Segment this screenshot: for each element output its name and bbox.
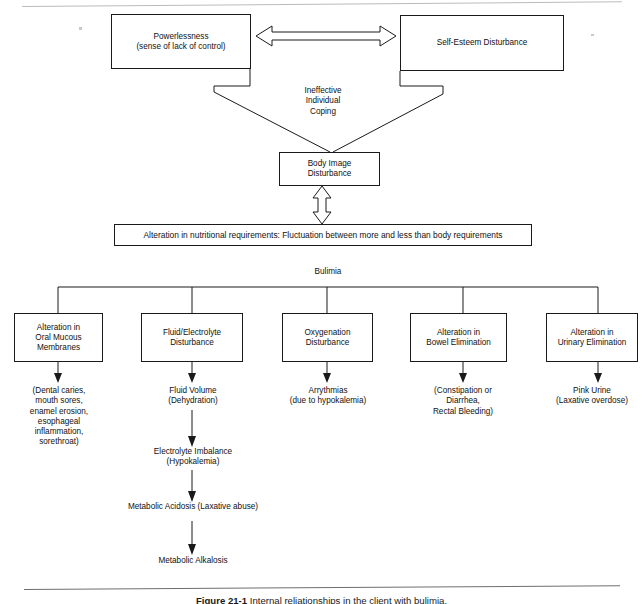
scan-speck-right <box>591 34 594 36</box>
box-bowel-elimination: Alteration in Bowel Elimination <box>410 313 507 362</box>
detail-bowel-elimination: (Constipation or Diarrhea, Rectal Bleedi… <box>406 386 520 417</box>
detail-arrythmias: Arrythmias (due to hypokalemia) <box>265 386 391 407</box>
box-urinary-elimination: Alteration in Urinary Elimination <box>546 313 638 362</box>
label-metabolic-acidosis: Metabolic Acidosis (Laxative abuse) <box>110 502 276 512</box>
double-arrow-horizontal <box>256 26 396 46</box>
label-metabolic-alkalosis: Metabolic Alkalosis <box>137 556 249 566</box>
double-arrow-vertical <box>313 186 331 224</box>
box-oral-mucous-membranes: Alteration in Oral Mucous Membranes <box>14 313 103 362</box>
figure-caption: Figure 21-1 Internal reliationships in t… <box>0 595 643 604</box>
caption-divider <box>24 585 620 590</box>
box-fluid-electrolyte-disturbance: Fluid/Electrolyte Disturbance <box>141 313 243 362</box>
box-body-image-disturbance: Body Image Disturbance <box>279 152 380 186</box>
label-ineffective-individual-coping: Ineffective Individual Coping <box>267 86 379 117</box>
detail-urinary-elimination: Pink Urine (Laxative overdose) <box>535 386 643 407</box>
scan-speck-left <box>79 27 82 30</box>
label-electrolyte-imbalance: Electrolyte Imbalance (Hypokalemia) <box>127 447 259 468</box>
detail-oral-mucous-membranes: (Dental caries, mouth sores, enamel eros… <box>3 386 115 448</box>
box-self-esteem-disturbance: Self-Esteem Disturbance <box>400 15 564 71</box>
scan-rule-top <box>22 1 622 7</box>
box-powerlessness: Powerlessness (sense of lack of control) <box>111 14 251 69</box>
detail-fluid-volume: Fluid Volume (Dehydration) <box>137 386 249 407</box>
figure-number: Figure 21-1 <box>196 595 247 604</box>
figure-caption-text: Internal reliationships in the client wi… <box>247 595 447 604</box>
box-alteration-nutritional-requirements: Alteration in nutritional requirements: … <box>114 224 532 246</box>
label-bulimia: Bulimia <box>288 267 368 277</box>
box-oxygenation-disturbance: Oxygenation Disturbance <box>282 313 373 362</box>
diagram-canvas: Powerlessness (sense of lack of control)… <box>0 0 643 604</box>
